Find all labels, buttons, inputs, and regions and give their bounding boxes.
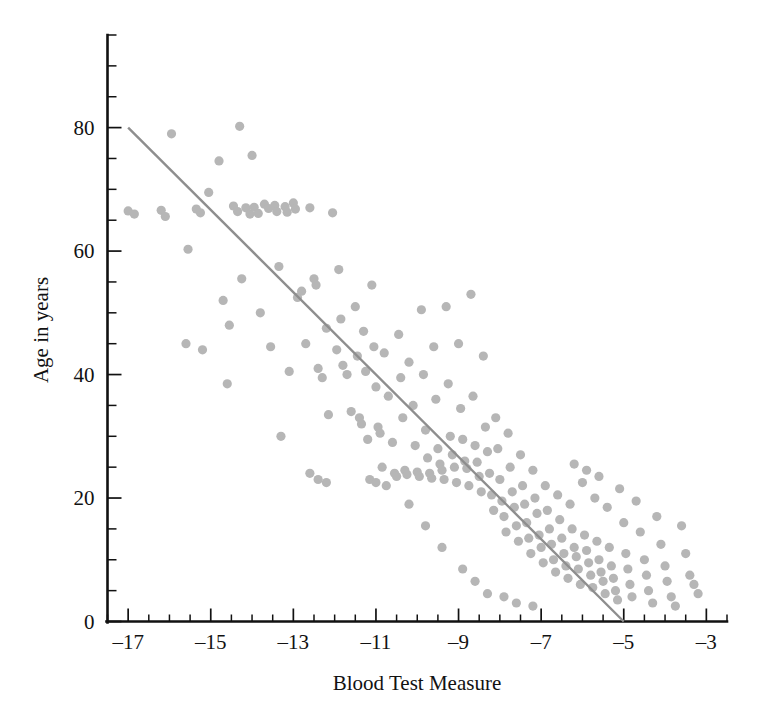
x-axis-title: Blood Test Measure [333,671,501,695]
data-point [442,302,451,311]
data-point [398,413,407,422]
data-point [565,500,574,509]
data-point [415,472,424,481]
data-point [305,469,314,478]
data-point [541,481,550,490]
data-point [582,546,591,555]
data-point [276,432,285,441]
plot-background [0,0,774,720]
data-point [311,280,320,289]
x-tick-label: –17 [111,630,144,654]
y-tick-label: 60 [74,239,95,263]
data-point [439,475,448,484]
data-point [423,453,432,462]
data-point [636,527,645,536]
data-point [499,512,508,521]
data-point [371,478,380,487]
data-point [437,543,446,552]
data-point [375,429,384,438]
data-point [456,404,465,413]
data-point [559,549,568,558]
x-tick-label: –3 [695,630,717,654]
data-point [677,521,686,530]
data-point [392,472,401,481]
data-point [291,204,300,213]
data-point [481,422,490,431]
data-point [501,527,510,536]
data-point [625,580,634,589]
data-point [342,370,351,379]
data-point [549,555,558,564]
data-point [582,466,591,475]
data-point [592,537,601,546]
data-point [470,577,479,586]
data-point [382,481,391,490]
data-point [466,290,475,299]
data-point [568,524,577,533]
data-point [479,351,488,360]
y-tick-label: 40 [74,363,95,387]
scatter-plot-figure: –17–15–13–11–9–7–5–3 020406080 Blood Tes… [0,0,774,720]
data-point [380,348,389,357]
data-point [530,493,539,502]
data-point [404,358,413,367]
data-point [332,345,341,354]
data-point [274,262,283,271]
data-point [318,373,327,382]
data-point [204,188,213,197]
data-point [404,500,413,509]
data-point [516,450,525,459]
data-point [338,361,347,370]
data-point [570,543,579,552]
data-point [611,586,620,595]
data-point [437,466,446,475]
data-point [130,209,139,218]
data-point [305,203,314,212]
data-point [512,598,521,607]
data-point [557,534,566,543]
data-point [685,571,694,580]
data-point [514,537,523,546]
data-point [384,392,393,401]
data-point [613,595,622,604]
data-point [563,574,572,583]
data-point [388,438,397,447]
data-point [681,549,690,558]
data-point [660,561,669,570]
data-point [266,342,275,351]
data-point [334,265,343,274]
data-point [543,506,552,515]
data-point [429,342,438,351]
data-point [214,156,223,165]
data-point [594,555,603,564]
data-point [504,429,513,438]
data-point [247,151,256,160]
data-point [483,447,492,456]
data-point [491,413,500,422]
x-tick-label: –7 [530,630,552,654]
data-point [285,367,294,376]
data-point [537,543,546,552]
data-point [518,481,527,490]
data-point [421,521,430,530]
data-point [402,470,411,479]
data-point [584,558,593,567]
data-point [483,589,492,598]
data-point [570,459,579,468]
data-point [223,379,232,388]
data-point [283,208,292,217]
x-tick-label: –11 [360,630,392,654]
data-point [351,302,360,311]
data-point [477,487,486,496]
data-point [198,345,207,354]
data-point [233,207,242,216]
data-point [322,478,331,487]
data-point [601,589,610,598]
data-point [640,555,649,564]
data-point [599,577,608,586]
data-point [272,207,281,216]
data-point [586,571,595,580]
data-point [605,543,614,552]
data-point [499,592,508,601]
data-point [596,568,605,577]
